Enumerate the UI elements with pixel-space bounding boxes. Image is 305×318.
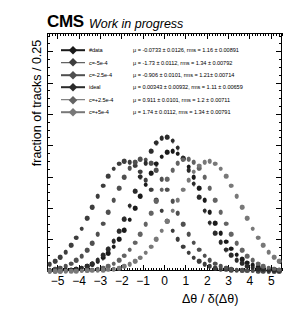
x-tick-label: 5 — [256, 274, 286, 288]
data-point — [149, 187, 154, 192]
data-point — [202, 253, 207, 258]
data-point — [165, 135, 170, 140]
data-point — [53, 259, 58, 264]
data-point — [111, 166, 116, 171]
data-point — [277, 267, 282, 272]
data-point — [117, 161, 122, 166]
data-point — [127, 248, 132, 253]
data-point — [250, 265, 255, 270]
data-point — [250, 226, 255, 231]
data-point — [106, 210, 111, 215]
data-point — [138, 194, 143, 199]
data-point — [197, 259, 202, 264]
data-point — [272, 255, 277, 260]
data-point — [122, 159, 127, 164]
data-point — [170, 199, 175, 204]
data-point — [95, 268, 100, 273]
data-point — [106, 174, 111, 179]
legend-item: c=+2.5e-4μ = 0.911 ± 0.0101, rms = 1.2 ±… — [61, 94, 276, 106]
data-point — [106, 267, 111, 272]
data-point — [213, 231, 218, 236]
data-point — [95, 194, 100, 199]
data-point — [245, 216, 250, 221]
data-point — [202, 262, 207, 267]
data-point — [160, 154, 165, 159]
data-point — [111, 244, 116, 249]
data-point — [149, 171, 154, 176]
data-point — [192, 240, 197, 245]
data-point — [117, 186, 122, 191]
data-point — [101, 221, 106, 226]
data-point — [176, 211, 181, 216]
data-point — [256, 267, 261, 272]
data-point — [111, 198, 116, 203]
data-point — [234, 258, 239, 263]
data-point — [176, 237, 181, 242]
data-point — [165, 177, 170, 182]
chart-root: CMS Work in progress fraction of tracks … — [0, 0, 305, 318]
data-point — [181, 157, 186, 162]
data-point — [176, 161, 181, 166]
data-point — [218, 166, 223, 171]
data-point — [47, 269, 52, 274]
data-point — [170, 149, 175, 154]
data-point — [229, 267, 234, 272]
data-point — [202, 175, 207, 180]
data-point — [261, 243, 266, 248]
data-point — [197, 248, 202, 253]
data-point — [165, 150, 170, 155]
data-point — [192, 255, 197, 260]
data-point — [95, 232, 100, 237]
data-point — [213, 261, 218, 266]
data-point — [133, 189, 138, 194]
data-point — [117, 258, 122, 263]
data-point — [117, 266, 122, 271]
legend-item-stats: μ = -0.906 ± 0.0101, rms = 1.21± 0.00714 — [133, 72, 234, 78]
data-point — [218, 240, 223, 245]
data-point — [256, 261, 261, 266]
cms-header: CMS Work in progress — [47, 12, 183, 30]
data-point — [95, 258, 100, 263]
data-point — [245, 268, 250, 273]
data-point — [229, 232, 234, 237]
data-point — [133, 206, 138, 211]
data-point — [192, 160, 197, 165]
data-point — [165, 219, 170, 224]
data-point — [85, 216, 90, 221]
data-point — [186, 232, 191, 237]
data-point — [111, 239, 116, 244]
data-point — [160, 177, 165, 182]
data-point — [176, 145, 181, 150]
data-point — [160, 228, 165, 233]
legend-item-label: ideal — [89, 84, 100, 90]
data-point — [144, 182, 149, 187]
data-point — [122, 264, 127, 269]
cms-logo-text: CMS — [47, 13, 84, 30]
data-point — [74, 258, 79, 263]
data-point — [79, 269, 84, 274]
legend-item: c=+5e-4μ = 1.74 ± 0.0112, rms = 1.34 ± 0… — [61, 106, 276, 118]
legend-item: #dataμ = -0.0733 ± 0.0126, rms = 1.16 ± … — [61, 44, 276, 56]
data-point — [144, 161, 149, 166]
data-point — [133, 259, 138, 264]
data-point — [144, 222, 149, 227]
data-point — [144, 250, 149, 255]
data-point — [224, 174, 229, 179]
data-point — [90, 268, 95, 273]
data-point — [138, 255, 143, 260]
data-point — [90, 241, 95, 246]
data-point — [127, 203, 132, 208]
data-point — [186, 250, 191, 255]
data-point — [58, 255, 63, 260]
data-point — [101, 253, 106, 258]
data-point — [218, 231, 223, 236]
data-point — [218, 210, 223, 215]
data-point — [240, 261, 245, 266]
data-point — [261, 264, 266, 269]
data-point — [245, 254, 250, 259]
y-axis-title: fraction of tracks / 0.25 — [30, 3, 44, 203]
data-point — [90, 205, 95, 210]
data-point — [234, 252, 239, 257]
data-point — [85, 248, 90, 253]
data-point — [208, 220, 213, 225]
